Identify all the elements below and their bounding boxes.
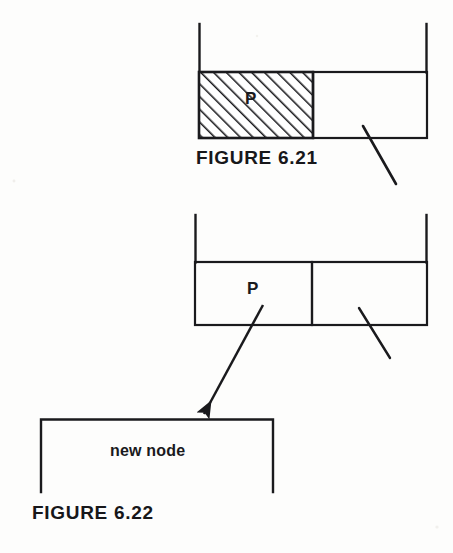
node-621-pointer-field — [313, 72, 427, 138]
pointer-arrow-to-new-node — [204, 305, 263, 414]
figure-6-22-graphic — [41, 215, 427, 492]
caption-figure-622: FIGURE 6.22 — [32, 502, 154, 524]
label-p-figure-622: P — [247, 279, 258, 299]
label-new-node: new node — [110, 442, 185, 460]
figure-page: P FIGURE 6.21 P new node FIGURE 6.22 — [0, 0, 453, 553]
label-p-figure-621: P — [245, 89, 256, 109]
node-622-pointer-field — [312, 262, 427, 325]
figures-canvas — [0, 0, 453, 553]
null-slash-621 — [363, 126, 396, 184]
caption-figure-621: FIGURE 6.21 — [196, 147, 318, 169]
null-slash-622 — [359, 308, 390, 358]
